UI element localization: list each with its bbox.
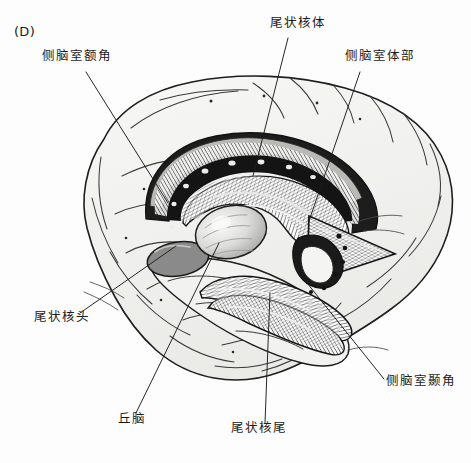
label-thalamus: 丘脑 — [118, 413, 146, 426]
label-caudate-head: 尾状核头 — [34, 311, 90, 324]
panel-letter: (D) — [14, 24, 35, 39]
label-frontal-horn: 侧脑室额角 — [42, 50, 113, 63]
label-temporal-horn: 侧脑室颞角 — [386, 375, 457, 388]
label-caudate-body: 尾状核体 — [270, 17, 326, 30]
brain-diagram-illustration — [0, 0, 471, 463]
label-caudate-tail: 尾状核尾 — [231, 422, 287, 435]
anatomical-figure-panel: (D) 侧脑室额角 尾状核体 侧脑室体部 尾状核头 丘脑 尾状核尾 侧脑室颞角 — [0, 0, 471, 463]
label-ventricle-body: 侧脑室体部 — [345, 50, 416, 63]
